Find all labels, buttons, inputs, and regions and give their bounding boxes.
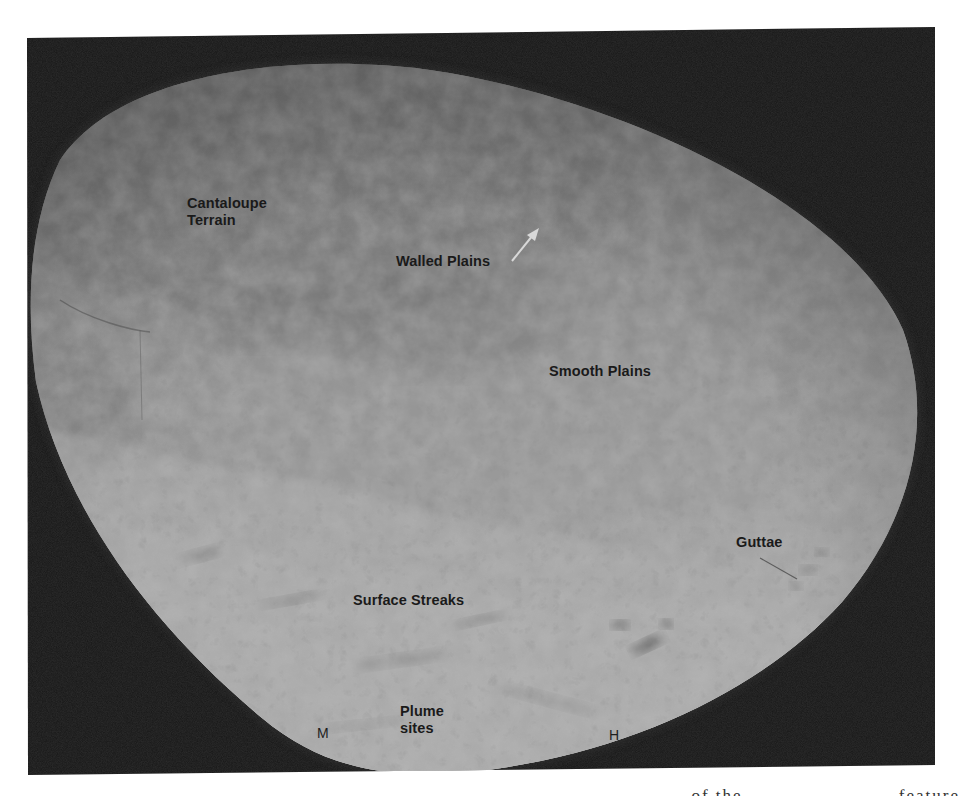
label-cantaloupe-terrain: Cantaloupe Terrain	[187, 195, 267, 229]
triton-photo	[0, 0, 962, 796]
marker-m: M	[317, 725, 329, 741]
label-guttae: Guttae	[736, 534, 783, 551]
triton-figure: Cantaloupe Terrain Walled Plains Smooth …	[0, 0, 962, 796]
label-walled-plains: Walled Plains	[396, 253, 490, 270]
caption-fragment: ... of the ... ... ... ... ... ... featu…	[480, 786, 960, 796]
marker-h: H	[609, 727, 619, 743]
label-smooth-plains: Smooth Plains	[549, 363, 651, 380]
label-surface-streaks: Surface Streaks	[353, 592, 464, 609]
label-plume-sites: Plume sites	[400, 703, 444, 737]
